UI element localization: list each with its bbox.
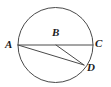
point-label-c: C <box>95 38 102 49</box>
segment-ad-chord <box>18 45 84 65</box>
point-label-d: D <box>87 62 95 73</box>
geometry-figure: A B C D <box>0 0 111 87</box>
point-label-b: B <box>52 27 59 38</box>
segment-bd <box>56 45 84 65</box>
point-label-a: A <box>5 39 12 50</box>
